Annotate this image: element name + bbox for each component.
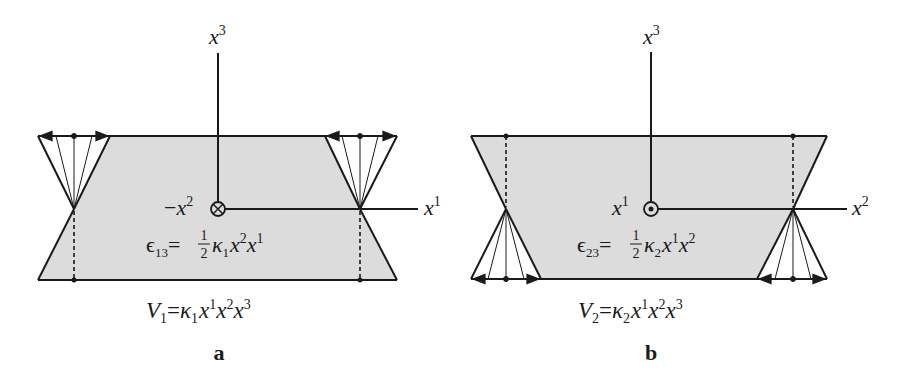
svg-text:2: 2: [201, 246, 208, 261]
svg-text:κ2x1x2: κ2x1x2: [644, 231, 696, 260]
axis-label-x3-a: x3: [208, 23, 226, 49]
svg-text:V2=κ2x1x2x3: V2=κ2x1x2x3: [578, 297, 683, 326]
axis-label-x2-b: x2: [851, 194, 869, 220]
displacement-formula-b: V2=κ2x1x2x3: [578, 297, 683, 326]
panel-label-a: a: [214, 340, 225, 365]
panel-a: x3 x1 −x2 ϵ13= 1 2 κ1x2x1 V1=κ1x1x2x3 a: [38, 23, 441, 365]
axis-label-x3-b: x3: [642, 23, 660, 49]
svg-text:1: 1: [633, 228, 640, 243]
displacement-formula-a: V1=κ1x1x2x3: [146, 297, 251, 326]
panel-label-b: b: [645, 340, 657, 365]
svg-text:1: 1: [201, 228, 208, 243]
panel-b: x3 x2 x1 ϵ23= 1 2 κ2x1x2 V2=κ2x1x2x3 b: [471, 23, 869, 365]
diagram-canvas: x3 x1 −x2 ϵ13= 1 2 κ1x2x1 V1=κ1x1x2x3 a: [0, 0, 915, 390]
svg-text:V1=κ1x1x2x3: V1=κ1x1x2x3: [146, 297, 251, 326]
axis-label-x1-a: x1: [423, 194, 441, 220]
svg-text:κ1x2x1: κ1x2x1: [212, 231, 264, 260]
svg-text:2: 2: [633, 246, 640, 261]
